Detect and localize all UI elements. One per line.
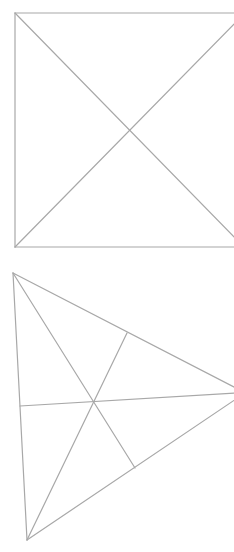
triangle-median-right — [20, 393, 234, 406]
triangle-figure — [13, 273, 234, 540]
square-diagonal-1 — [15, 13, 234, 239]
square-figure — [15, 13, 234, 247]
geometry-diagram — [0, 0, 234, 552]
triangle-median-bottom — [27, 333, 127, 540]
triangle-upper-edge — [13, 273, 234, 388]
triangle-median-top — [13, 273, 135, 468]
square-diagonal-2 — [15, 22, 234, 247]
triangle-lower-edge — [27, 399, 234, 540]
